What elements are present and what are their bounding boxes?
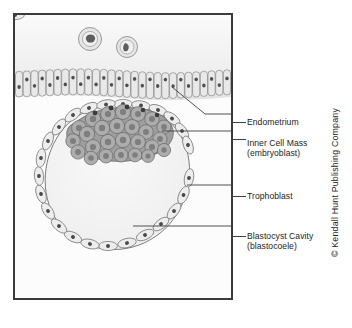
label-endometrium-text: Endometrium [247, 117, 299, 127]
blastocyst-implantation-illustration [15, 15, 231, 298]
label-endometrium: Endometrium [247, 117, 299, 127]
free-floating-cell-1 [79, 28, 102, 51]
label-trophoblast-text: Trophoblast [247, 191, 293, 201]
label-inner-cell-mass-subtext: (embryoblast) [247, 148, 307, 158]
label-blastocyst-cavity: Blastocyst Cavity (blastocoele) [247, 231, 313, 252]
free-floating-cell-2 [117, 37, 138, 58]
endometrial-epithelium [15, 69, 231, 100]
label-inner-cell-mass: Inner Cell Mass (embryoblast) [247, 138, 307, 159]
label-blastocyst-cavity-text: Blastocyst Cavity [247, 231, 313, 241]
leader-stub-inner-cell-mass [233, 139, 246, 140]
leader-stub-endometrium [233, 122, 246, 123]
leader-stub-blastocyst-cavity [233, 236, 246, 237]
label-blastocyst-cavity-subtext: (blastocoele) [247, 241, 313, 251]
figure-root: Endometrium Inner Cell Mass (embryoblast… [0, 0, 352, 328]
copyright-credit: © Kendall Hunt Publishing Company [330, 108, 340, 257]
leader-stub-trophoblast [233, 196, 246, 197]
label-inner-cell-mass-text: Inner Cell Mass [247, 138, 307, 148]
illustration-panel [13, 13, 233, 300]
label-trophoblast: Trophoblast [247, 191, 293, 201]
